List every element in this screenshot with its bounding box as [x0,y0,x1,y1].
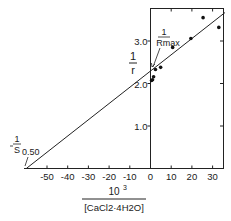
data-points [150,16,221,83]
svg-text:r: r [131,64,135,76]
svg-text:[CaCl2·4H2O]: [CaCl2·4H2O] [84,202,144,213]
x-tick-label: -20 [102,171,116,182]
data-point [159,66,163,70]
svg-text:S: S [14,145,20,155]
svg-text:3: 3 [123,184,127,191]
x-tick-label: 0 [148,171,153,182]
plot-frame [24,8,224,169]
x-tick-label: -50 [40,171,54,182]
svg-text:1: 1 [161,27,166,37]
svg-text:Rmax: Rmax [156,38,180,48]
x-tick-label: 30 [207,171,218,182]
data-point [201,16,205,20]
x-tick-label: -10 [123,171,137,182]
svg-text:1: 1 [130,50,136,62]
y-tick-label: 3.0 [134,36,147,47]
x-tick-labels: -50-40-30-20-100102030 [40,171,218,182]
data-point [152,75,156,79]
svg-text:1: 1 [14,134,19,144]
x-axis-label: 10 3 [CaCl2·4H2O] [82,184,146,213]
x-tick-label: -40 [61,171,75,182]
y-tick-label: 2.0 [134,79,147,90]
fit-line [26,13,225,169]
y-tick-labels: 1.02.03.0 [134,36,147,132]
data-point [154,68,158,72]
x-tick-label: 20 [187,171,198,182]
x-tick-label: -30 [82,171,96,182]
y-axis-label: 1 r [129,50,137,76]
lineweaver-burk-plot: -50-40-30-20-100102030 1.02.03.0 1 r 1 R… [0,0,231,221]
rmax-annotation: 1 Rmax [152,27,181,67]
y-tick-label: 1.0 [134,121,147,132]
data-point [189,37,193,41]
data-point [217,26,221,30]
svg-text:10: 10 [108,186,120,197]
svg-text:0.50: 0.50 [22,147,40,157]
y-ticks [148,41,224,126]
x-tick-label: 10 [166,171,177,182]
